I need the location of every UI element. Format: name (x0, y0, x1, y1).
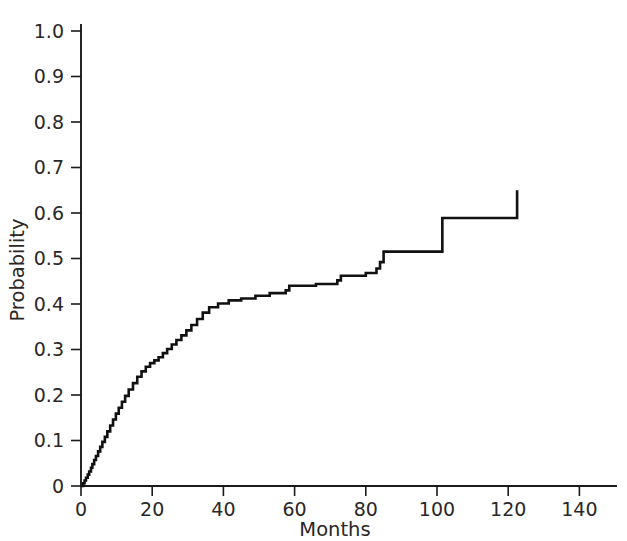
x-axis-ticks (81, 486, 579, 496)
y-axis-title: Probability (6, 218, 29, 321)
y-tick-label: 0.7 (34, 156, 64, 178)
x-tick-label: 140 (561, 498, 597, 520)
x-axis: 020406080100120140 Months (75, 486, 616, 541)
y-tick-label: 0.8 (34, 111, 64, 133)
y-tick-label: 0.2 (34, 384, 64, 406)
y-tick-label: 0.1 (34, 429, 64, 451)
x-tick-label: 120 (490, 498, 526, 520)
x-tick-label: 80 (354, 498, 378, 520)
y-tick-label: 0.5 (34, 247, 64, 269)
y-tick-label: 0 (52, 475, 64, 497)
x-tick-label: 60 (283, 498, 307, 520)
y-tick-label: 0.9 (34, 65, 64, 87)
y-axis: 00.10.20.30.40.50.60.70.80.91.0 Probabil… (6, 20, 81, 497)
y-tick-label: 0.3 (34, 338, 64, 360)
x-tick-label: 40 (211, 498, 235, 520)
step-curve-cumulative-probability (81, 190, 517, 486)
x-tick-label: 0 (75, 498, 87, 520)
y-tick-label: 0.4 (34, 293, 64, 315)
y-tick-label: 0.6 (34, 202, 64, 224)
y-axis-tick-labels: 00.10.20.30.40.50.60.70.80.91.0 (34, 20, 64, 497)
x-tick-label: 100 (419, 498, 455, 520)
y-tick-label: 1.0 (34, 20, 64, 42)
x-axis-tick-labels: 020406080100120140 (75, 498, 598, 520)
data-series-group (81, 190, 517, 486)
x-axis-title: Months (299, 518, 370, 541)
chart-figure: 00.10.20.30.40.50.60.70.80.91.0 Probabil… (0, 0, 627, 541)
x-tick-label: 20 (140, 498, 164, 520)
y-axis-ticks (71, 31, 81, 486)
cumulative-incidence-chart: 00.10.20.30.40.50.60.70.80.91.0 Probabil… (0, 0, 627, 541)
